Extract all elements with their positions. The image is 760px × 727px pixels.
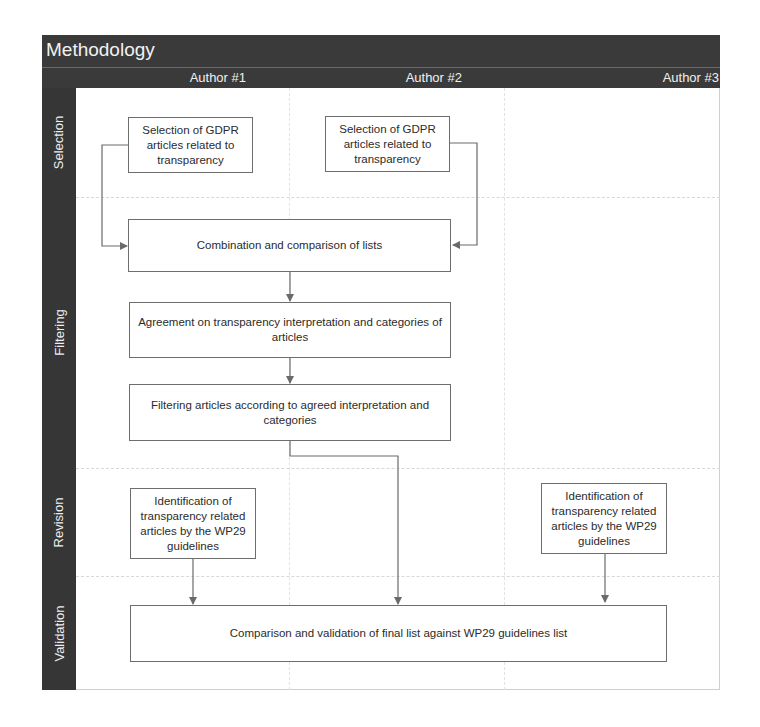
node-agreement: Agreement on transparency interpretation… bbox=[129, 302, 451, 358]
node-selection-author-2: Selection of GDPR articles related to tr… bbox=[325, 116, 450, 172]
node-revision-author-1: Identification of transparency related a… bbox=[130, 488, 256, 559]
column-divider bbox=[504, 88, 505, 690]
lane-label-text: Validation bbox=[52, 605, 67, 661]
lane-label-selection: Selection bbox=[42, 88, 76, 197]
lane-label-validation: Validation bbox=[42, 576, 76, 690]
lane-label-text: Filtering bbox=[52, 309, 67, 355]
node-revision-author-3: Identification of transparency related a… bbox=[541, 483, 667, 554]
lane-label-revision: Revision bbox=[42, 468, 76, 576]
lane-divider bbox=[76, 576, 720, 577]
diagram-title: Methodology bbox=[46, 39, 155, 61]
node-selection-author-1: Selection of GDPR articles related to tr… bbox=[128, 117, 253, 173]
author-header-row: Author #1 Author #2 Author #3 bbox=[42, 68, 720, 88]
lane-label-text: Revision bbox=[52, 497, 67, 547]
diagram-title-bar: Methodology bbox=[42, 35, 720, 68]
node-validation: Comparison and validation of final list … bbox=[130, 605, 667, 662]
column-header-author-3: Author #3 bbox=[42, 70, 719, 85]
lane-divider bbox=[76, 468, 720, 469]
lane-divider bbox=[76, 197, 720, 198]
lane-sidebar: Selection Filtering Revision Validation bbox=[42, 88, 76, 690]
node-combination: Combination and comparison of lists bbox=[128, 219, 451, 272]
lane-label-filtering: Filtering bbox=[42, 197, 76, 468]
node-filtering: Filtering articles according to agreed i… bbox=[129, 384, 451, 441]
lane-label-text: Selection bbox=[52, 116, 67, 169]
